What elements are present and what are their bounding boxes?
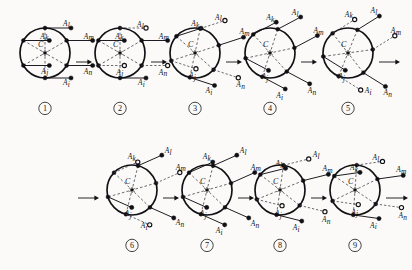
endpoint-hollow-6-i: [148, 223, 152, 227]
node-label-8-i: Ai: [292, 223, 300, 234]
node-label-4-i: Ai: [275, 91, 283, 102]
center-star-2: [117, 50, 122, 56]
node-subscript: n: [327, 217, 331, 226]
panel-number-5: 5: [346, 104, 350, 113]
node-subscript: i: [68, 80, 70, 89]
node-subscript: i: [375, 222, 377, 231]
node-label-6-l: Al: [164, 146, 172, 157]
endpoint-hollow-9-n: [399, 206, 403, 210]
node-label-3-n: An: [235, 80, 245, 91]
node-label-5-l: Al: [369, 6, 377, 17]
center-star-core: [119, 52, 122, 55]
node-label-4-n: An: [307, 86, 317, 97]
rotation-sequence-figure: CAkAlAmAjAiAn1CAkAlAmAjAiAn2CAkAlAmAjAiA…: [0, 0, 412, 270]
panel-number-2: 2: [118, 104, 122, 113]
node-label-5-i: Ai: [364, 86, 372, 97]
endpoint-hollow-8-j: [280, 204, 284, 208]
endpoint-filled-7-k: [211, 160, 215, 164]
center-star-5: [345, 50, 350, 56]
arrow-9-out-head: [403, 195, 408, 200]
endpoint-hollow-9-j: [356, 202, 360, 206]
center-label-5: C: [341, 40, 347, 49]
endpoint-filled-5-j: [343, 68, 347, 72]
stem-6-k: [114, 162, 138, 173]
stem-6-m: [156, 173, 180, 184]
center-label-9: C: [348, 177, 354, 186]
node-subscript: l: [318, 152, 320, 161]
node-label-3-i: Ai: [205, 86, 213, 97]
node-subscript: m: [327, 166, 333, 175]
arrow-7-8-head: [249, 195, 254, 200]
node-subscript: i: [221, 228, 223, 237]
endpoint-filled-1-j: [47, 63, 51, 67]
panel-number-4: 4: [268, 104, 272, 113]
arrow-5-out-head: [395, 59, 400, 64]
panel-number-9: 9: [353, 241, 357, 250]
panel-5: CAkAlAmAjAiAn5: [321, 6, 401, 115]
stem-5-m: [373, 36, 395, 50]
stem-4-j: [246, 58, 269, 70]
endpoint-filled-5-l: [377, 14, 381, 18]
endpoint-filled-7-j: [205, 205, 209, 209]
node-subscript: l: [377, 155, 379, 164]
center-star-8: [277, 187, 282, 193]
arrow-5-out: [379, 59, 400, 64]
node-label-5-n: An: [382, 88, 392, 99]
node-subscript: m: [163, 33, 169, 42]
endpoint-hollow-8-l: [307, 157, 311, 161]
node-label-8-n: An: [321, 215, 331, 226]
figure-root: CAkAlAmAjAiAn1CAkAlAmAjAiAn2CAkAlAmAjAiA…: [0, 0, 412, 270]
node-subscript: m: [318, 28, 324, 37]
endpoint-filled-4-k: [274, 20, 278, 24]
endpoint-hollow-3-l: [223, 18, 227, 22]
arrow-3-4-head: [237, 59, 242, 64]
node-subscript: i: [143, 80, 145, 89]
panels-layer: CAkAlAmAjAiAn1CAkAlAmAjAiAn2CAkAlAmAjAiA…: [20, 6, 407, 252]
arrow-9-out: [386, 195, 408, 200]
stem-7-k: [189, 162, 213, 173]
endpoint-filled-3-i: [212, 83, 216, 87]
node-subscript: n: [163, 69, 167, 78]
node-subscript: i: [369, 88, 371, 97]
node-subscript: j: [355, 209, 358, 218]
stem-7-n: [225, 207, 249, 218]
node-subscript: n: [256, 221, 260, 230]
arrow-8-9-head: [322, 195, 327, 200]
ring-node-6-m: [154, 181, 158, 185]
endpoint-filled-6-j: [130, 205, 134, 209]
node-subscript: n: [403, 213, 407, 222]
node-label-9-n: An: [397, 211, 407, 222]
node-label-7-i: Ai: [215, 226, 223, 237]
stem-7-j: [183, 197, 207, 208]
stem-9-m: [377, 175, 403, 179]
node-subscript: l: [296, 10, 298, 19]
center-star-core: [269, 52, 272, 55]
endpoint-hollow-5-k: [353, 17, 357, 21]
stem-9-n: [376, 204, 402, 208]
panel-number-3: 3: [193, 104, 197, 113]
node-subscript: i: [281, 93, 283, 102]
node-label-8-m: Am: [321, 164, 333, 175]
arrow-3-4: [226, 59, 242, 64]
node-subscript: m: [396, 28, 402, 37]
node-subscript: j: [193, 73, 196, 82]
endpoint-filled-9-k: [358, 170, 362, 174]
node-subscript: i: [210, 88, 212, 97]
node-subscript: l: [68, 21, 70, 30]
stem-8-l: [283, 159, 308, 165]
node-label-7-l: Al: [239, 146, 247, 157]
center-star-core: [206, 189, 209, 192]
node-label-9-m: Am: [395, 165, 407, 176]
endpoint-hollow-5-i: [359, 88, 363, 92]
node-label-7-k: Ak: [202, 152, 212, 163]
node-label-6-n: An: [175, 218, 185, 229]
stem-5-n: [363, 73, 385, 87]
endpoint-hollow-9-l: [380, 159, 384, 163]
center-star-1: [42, 50, 47, 56]
center-star-core: [44, 52, 47, 55]
node-label-5-k: Ak: [344, 10, 354, 21]
node-subscript: l: [245, 148, 247, 157]
endpoint-hollow-6-k: [136, 160, 140, 164]
center-label-3: C: [188, 40, 194, 49]
endpoint-filled-6-l: [160, 153, 164, 157]
